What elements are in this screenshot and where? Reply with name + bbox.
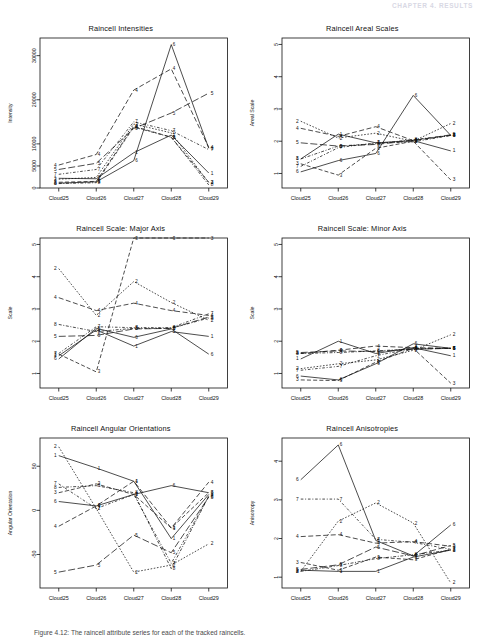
y-tick-label: 1 xyxy=(273,372,279,375)
series-point-label: 3 xyxy=(339,568,342,573)
series-line xyxy=(59,484,209,563)
x-tick-label: Cloud26 xyxy=(86,395,106,401)
y-axis-label: Intensity xyxy=(7,103,13,123)
chart-row-2: Raincell Scale: Major Axis 12345ScaleClo… xyxy=(0,222,483,422)
y-tick-label: 4 xyxy=(31,275,37,278)
y-tick-label: 4 xyxy=(273,75,279,78)
y-tick-label: 4 xyxy=(273,275,279,278)
series-label-start: 5 xyxy=(296,140,299,145)
series-line xyxy=(59,456,209,539)
chart-cell-1: Raincell Areal Scales 12345Areal ScaleCl… xyxy=(242,22,483,222)
series-point-label: 2 xyxy=(377,131,380,136)
series-label-start: 8 xyxy=(296,156,299,161)
series-point-label: 4 xyxy=(339,532,342,537)
series-point-label: 6 xyxy=(135,158,138,163)
y-axis-label: Areal Scale xyxy=(249,100,255,127)
chart-grid: Raincell Intensities 0500010000200003000… xyxy=(0,22,483,622)
x-tick-label: Cloud27 xyxy=(124,595,144,601)
y-tick-label: 1 xyxy=(273,172,279,175)
series-label-start: 5 xyxy=(54,334,57,339)
series-line xyxy=(59,328,209,359)
series-point-label: 7 xyxy=(339,364,342,369)
y-tick-label: 2 xyxy=(273,340,279,343)
chart-title-1: Raincell Areal Scales xyxy=(242,24,483,33)
x-tick-label: Cloud29 xyxy=(199,195,219,201)
series-point-label: 3 xyxy=(339,173,342,178)
series-label-end: 6 xyxy=(211,352,214,357)
series-point-label: 1 xyxy=(339,339,342,344)
x-tick-label: Cloud25 xyxy=(290,395,310,401)
plot-1: 12345Areal ScaleCloud25Cloud26Cloud27Clo… xyxy=(242,22,483,222)
series-point-label: 4 xyxy=(173,526,176,531)
series-point-label: 2 xyxy=(135,570,138,575)
series-line xyxy=(59,126,209,182)
y-tick-label: 2 xyxy=(273,537,279,540)
series-label-start: 6 xyxy=(296,169,299,174)
series-point-label: 6 xyxy=(377,361,380,366)
series-point-label: 5 xyxy=(173,111,176,116)
chart-title-2: Raincell Scale: Major Axis xyxy=(0,224,242,233)
series-point-label: 4 xyxy=(98,152,101,157)
x-tick-label: Cloud25 xyxy=(49,395,69,401)
x-tick-label: Cloud28 xyxy=(161,395,181,401)
plot-frame xyxy=(282,438,470,588)
series-point-label: 8 xyxy=(98,180,101,185)
chart-cell-3: Raincell Scale: Minor Axis 12345ScaleClo… xyxy=(242,222,483,422)
series-label-start: 4 xyxy=(54,524,57,529)
series-point-label: 4 xyxy=(98,308,101,313)
y-tick-label: -50 xyxy=(31,551,37,559)
series-label-start: 6 xyxy=(296,374,299,379)
series-point-label: 1 xyxy=(173,536,176,541)
figure-caption: Figure 4.12: The raincell attribute seri… xyxy=(34,628,454,637)
series-label-end: 8 xyxy=(211,316,214,321)
series-point-label: 5 xyxy=(173,550,176,555)
series-label-start: 5 xyxy=(54,570,57,575)
series-label-end: 1 xyxy=(211,334,214,339)
y-tick-label: 20000 xyxy=(31,92,37,107)
series-label-start: 7 xyxy=(296,368,299,373)
chart-svg-3: 12345ScaleCloud25Cloud26Cloud27Cloud28Cl… xyxy=(242,222,483,422)
x-tick-label: Cloud25 xyxy=(290,195,310,201)
series-label-end: 1 xyxy=(452,148,455,153)
chart-cell-0: Raincell Intensities 0500010000200003000… xyxy=(0,22,242,222)
x-tick-label: Cloud29 xyxy=(199,395,219,401)
series-point-label: 6 xyxy=(377,151,380,156)
series-label-end: 8 xyxy=(452,346,455,351)
series-label-end: 2 xyxy=(211,541,214,546)
series-label-end: 8 xyxy=(452,548,455,553)
series-point-label: 4 xyxy=(135,479,138,484)
running-head: CHAPTER 4. RESULTS xyxy=(392,2,473,9)
series-point-label: 7 xyxy=(377,353,380,358)
series-point-label: 4 xyxy=(173,308,176,313)
series-label-start: 2 xyxy=(54,444,57,449)
y-tick-label: 3 xyxy=(273,107,279,110)
series-point-label: 5 xyxy=(98,563,101,568)
series-label-end: 1 xyxy=(211,171,214,176)
series-label-end: 4 xyxy=(211,480,214,485)
series-label-start: 8 xyxy=(296,351,299,356)
chart-svg-1: 12345Areal ScaleCloud25Cloud26Cloud27Clo… xyxy=(242,22,483,222)
series-label-start: 7 xyxy=(54,351,57,356)
series-point-label: 8 xyxy=(98,483,101,488)
y-axis-label: Scale xyxy=(249,306,255,319)
series-line xyxy=(300,445,450,556)
series-label-start: 4 xyxy=(296,534,299,539)
series-point-label: 7 xyxy=(339,497,342,502)
y-tick-label: 50 xyxy=(31,463,37,469)
series-label-start: 1 xyxy=(54,453,57,458)
x-tick-label: Cloud26 xyxy=(328,195,348,201)
series-label-start: 7 xyxy=(296,497,299,502)
series-label-end: 3 xyxy=(211,236,214,241)
series-point-label: 6 xyxy=(339,158,342,163)
y-tick-label: 0 xyxy=(31,509,37,512)
x-tick-label: Cloud25 xyxy=(49,195,69,201)
y-tick-label: 1 xyxy=(273,576,279,579)
series-point-label: 8 xyxy=(173,326,176,331)
series-line xyxy=(59,127,209,185)
series-label-start: 2 xyxy=(54,266,57,271)
series-point-label: 2 xyxy=(414,521,417,526)
series-label-start: 8 xyxy=(54,322,57,327)
chart-svg-2: 12345ScaleCloud25Cloud26Cloud27Cloud28Cl… xyxy=(0,222,242,422)
x-tick-label: Cloud28 xyxy=(161,595,181,601)
figure-page: CHAPTER 4. RESULTS Raincell Intensities … xyxy=(0,0,483,638)
